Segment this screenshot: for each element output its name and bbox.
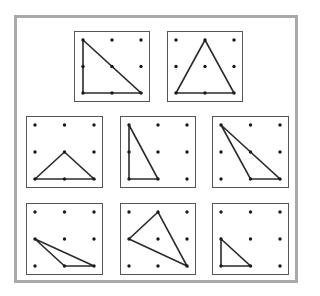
grid-dot xyxy=(185,123,188,126)
grid-dot xyxy=(156,150,159,153)
dot-grid-panel-3 xyxy=(26,116,103,188)
dot-grid-panel-2 xyxy=(167,31,243,102)
grid-dot xyxy=(219,210,222,213)
grid-dot xyxy=(63,150,66,153)
grid-dot xyxy=(249,210,252,213)
grid-dot xyxy=(110,65,113,68)
grid-dot xyxy=(232,91,235,94)
grid-dot xyxy=(127,237,130,240)
grid-dot xyxy=(127,210,130,213)
grid-dot xyxy=(156,237,159,240)
grid-dot xyxy=(249,264,252,267)
grid-dot xyxy=(63,264,66,267)
grid-dot xyxy=(127,177,130,180)
grid-dot xyxy=(219,237,222,240)
grid-dot xyxy=(33,177,36,180)
grid-dot xyxy=(185,177,188,180)
dot-grid-panel-7 xyxy=(120,203,196,275)
grid-dot xyxy=(139,65,142,68)
grid-dot xyxy=(127,123,130,126)
grid-dot xyxy=(92,264,95,267)
grid-dot xyxy=(81,65,84,68)
grid-dot xyxy=(127,264,130,267)
grid-dot xyxy=(156,210,159,213)
grid-dot xyxy=(219,123,222,126)
grid-dot xyxy=(185,264,188,267)
grid-dot xyxy=(33,123,36,126)
grid-dot xyxy=(203,38,206,41)
grid-dot xyxy=(174,91,177,94)
grid-dot xyxy=(92,210,95,213)
grid-dot xyxy=(63,237,66,240)
grid-dot xyxy=(139,91,142,94)
grid-dot xyxy=(156,264,159,267)
grid-dot xyxy=(232,65,235,68)
grid-dot xyxy=(249,177,252,180)
grid-dot xyxy=(278,264,281,267)
grid-dot xyxy=(185,237,188,240)
grid-dot xyxy=(63,177,66,180)
grid-dot xyxy=(81,38,84,41)
grid-dot xyxy=(63,210,66,213)
grid-dot xyxy=(203,65,206,68)
grid-dot xyxy=(278,210,281,213)
grid-dot xyxy=(63,123,66,126)
dot-grid-panel-1 xyxy=(74,31,150,102)
grid-dot xyxy=(110,38,113,41)
grid-dot xyxy=(92,150,95,153)
grid-dot xyxy=(185,150,188,153)
grid-dot xyxy=(249,123,252,126)
grid-dot xyxy=(203,91,206,94)
grid-dot xyxy=(278,123,281,126)
grid-dot xyxy=(156,123,159,126)
grid-dot xyxy=(278,237,281,240)
grid-dot xyxy=(174,65,177,68)
grid-dot xyxy=(92,237,95,240)
grid-dot xyxy=(219,264,222,267)
grid-dot xyxy=(278,177,281,180)
grid-dot xyxy=(110,91,113,94)
grid-dot xyxy=(219,177,222,180)
grid-dot xyxy=(249,150,252,153)
grid-dot xyxy=(127,150,130,153)
grid-dot xyxy=(156,177,159,180)
grid-dot xyxy=(92,123,95,126)
grid-dot xyxy=(33,237,36,240)
grid-dot xyxy=(278,150,281,153)
grid-dot xyxy=(33,264,36,267)
grid-dot xyxy=(92,177,95,180)
grid-dot xyxy=(174,38,177,41)
grid-dot xyxy=(232,38,235,41)
grid-dot xyxy=(249,237,252,240)
grid-dot xyxy=(33,150,36,153)
grid-dot xyxy=(33,210,36,213)
grid-dot xyxy=(185,210,188,213)
dot-grid-panel-5 xyxy=(212,116,289,188)
grid-dot xyxy=(139,38,142,41)
grid-dot xyxy=(219,150,222,153)
grid-dot xyxy=(81,91,84,94)
dot-grid-panel-8 xyxy=(212,203,289,275)
dot-grid-panel-6 xyxy=(26,203,103,275)
dot-grid-panel-4 xyxy=(120,116,196,188)
